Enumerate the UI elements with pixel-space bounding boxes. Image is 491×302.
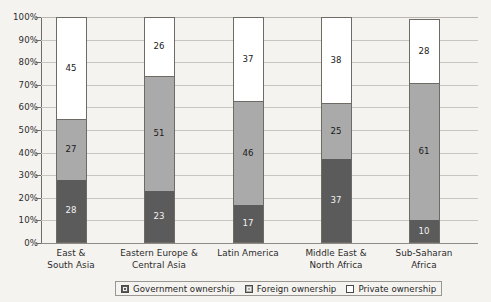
category-label-line: Central Asia — [104, 260, 214, 272]
bar-segment-value: 10 — [418, 227, 429, 236]
legend-item[interactable]: Private ownership — [346, 284, 436, 294]
y-axis-tick-label: 50% — [2, 125, 38, 135]
stacked-bar-chart: 100%90%80%70%60%50%40%30%20%10%0% 452728… — [0, 0, 491, 302]
y-axis-tick-label: 100% — [2, 12, 38, 22]
y-axis-tick-label: 30% — [2, 170, 38, 180]
y-axis-tick-label: 90% — [2, 35, 38, 45]
bar-segment-government[interactable]: 10 — [409, 220, 440, 243]
bar-segment-foreign[interactable]: 46 — [233, 101, 264, 205]
bar-segment-value: 46 — [242, 149, 253, 158]
bar-stack[interactable]: 265123 — [144, 17, 175, 243]
bar-segment-value: 25 — [330, 127, 341, 136]
category-label-line: Sub-Saharan — [369, 248, 479, 260]
y-axis-tick-label: 60% — [2, 102, 38, 112]
bar-segment-government[interactable]: 17 — [233, 205, 264, 243]
bar-segment-government[interactable]: 23 — [144, 191, 175, 243]
x-axis-baseline — [41, 243, 478, 244]
bar-segment-value: 51 — [153, 129, 164, 138]
chart-legend: Government ownershipForeign ownershipPri… — [115, 281, 442, 296]
legend-item[interactable]: Government ownership — [121, 284, 235, 294]
y-axis-tick-label: 70% — [2, 80, 38, 90]
bar-segment-value: 28 — [65, 206, 76, 215]
y-axis-tick-label: 40% — [2, 148, 38, 158]
bar-segment-value: 26 — [153, 42, 164, 51]
bar-segment-foreign[interactable]: 61 — [409, 83, 440, 221]
bar-segment-foreign[interactable]: 51 — [144, 76, 175, 191]
bar-segment-government[interactable]: 37 — [321, 159, 352, 243]
y-axis-ticks: 100%90%80%70%60%50%40%30%20%10%0% — [0, 17, 38, 243]
legend-label: Government ownership — [133, 284, 235, 294]
bar-stack[interactable]: 452728 — [56, 17, 87, 243]
bar-segment-value: 28 — [418, 47, 429, 56]
bar-segment-private[interactable]: 28 — [409, 19, 440, 82]
bar-segment-private[interactable]: 45 — [56, 17, 87, 119]
legend-item[interactable]: Foreign ownership — [245, 284, 337, 294]
legend-swatch-for — [245, 285, 253, 293]
bar-segment-value: 17 — [242, 219, 253, 228]
bar-segment-value: 45 — [65, 64, 76, 73]
bar-segment-private[interactable]: 37 — [233, 17, 264, 101]
bar-segment-value: 23 — [153, 212, 164, 221]
bar-stack[interactable]: 374617 — [233, 17, 264, 243]
legend-label: Foreign ownership — [257, 284, 337, 294]
bar-segment-value: 27 — [65, 145, 76, 154]
y-axis-tick-label: 10% — [2, 215, 38, 225]
bar-segment-foreign[interactable]: 25 — [321, 103, 352, 160]
y-axis-tick-label: 20% — [2, 193, 38, 203]
y-axis-tick-label: 80% — [2, 57, 38, 67]
category-label-line: Africa — [369, 260, 479, 272]
bar-segment-value: 37 — [330, 196, 341, 205]
bar-segment-value: 38 — [330, 56, 341, 65]
bar-stack[interactable]: 286110 — [409, 19, 440, 243]
plot-area: 452728265123374617382537286110 — [41, 17, 478, 243]
bar-stack[interactable]: 382537 — [321, 17, 352, 243]
bar-segment-foreign[interactable]: 27 — [56, 119, 87, 180]
category-label: Sub-SaharanAfrica — [369, 248, 479, 271]
y-axis-tick-label: 0% — [2, 238, 38, 248]
bar-segment-value: 37 — [242, 55, 253, 64]
legend-swatch-gov — [121, 285, 129, 293]
legend-label: Private ownership — [358, 284, 436, 294]
bar-segment-private[interactable]: 26 — [144, 17, 175, 76]
bar-segment-government[interactable]: 28 — [56, 180, 87, 243]
bar-segment-private[interactable]: 38 — [321, 17, 352, 103]
bar-segment-value: 61 — [418, 147, 429, 156]
legend-swatch-priv — [346, 285, 354, 293]
